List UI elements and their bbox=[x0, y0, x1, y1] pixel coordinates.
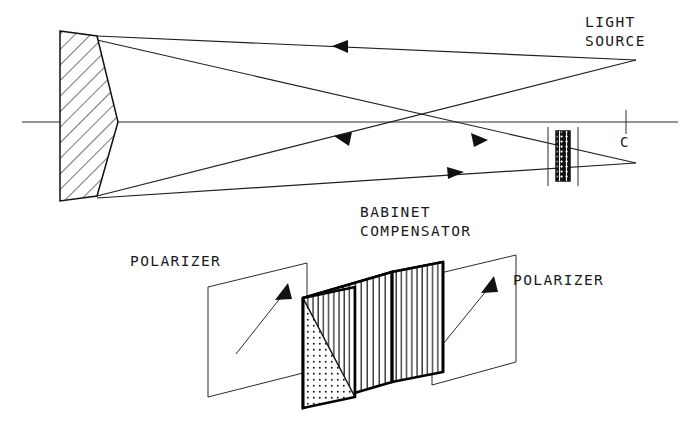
polarizer-left-arrow-shaft bbox=[236, 292, 285, 354]
ray-source-to-mirror-bottom bbox=[97, 60, 636, 196]
arrowhead-right bbox=[471, 133, 488, 147]
polarizer-right-arrowhead bbox=[481, 276, 498, 293]
arrowhead-left bbox=[334, 132, 352, 146]
polarizer-left-plane bbox=[208, 263, 307, 397]
babinet-label-line1: BABINET bbox=[360, 204, 431, 220]
polarizer-right-plane bbox=[432, 255, 516, 385]
upper-optical-diagram: LIGHT SOURCE C bbox=[22, 14, 678, 201]
figure-canvas: LIGHT SOURCE C bbox=[0, 0, 700, 436]
ray-source-to-mirror-top bbox=[97, 36, 636, 60]
light-source-label-line2: SOURCE bbox=[585, 33, 646, 49]
babinet-compensator-figure: LIGHT SOURCE C bbox=[0, 0, 700, 436]
mirror-hatch-fill bbox=[60, 31, 118, 201]
ray-mirror-bottom-to-focus bbox=[97, 163, 636, 198]
block-right-face bbox=[392, 262, 443, 382]
polarizer-left bbox=[208, 263, 307, 397]
polarizer-left-label: POLARIZER bbox=[130, 253, 221, 269]
polarizer-right bbox=[432, 255, 516, 385]
light-source-label-line1: LIGHT bbox=[585, 14, 636, 30]
lower-compensator-diagram: BABINET COMPENSATOR POLARIZER POLARIZER bbox=[130, 204, 604, 408]
babinet-label-line2: COMPENSATOR bbox=[360, 223, 471, 239]
polarizer-right-arrow-shaft bbox=[443, 285, 491, 344]
concave-mirror bbox=[60, 31, 118, 201]
arrowhead-left bbox=[332, 40, 348, 53]
compensator-body-fill bbox=[556, 131, 570, 181]
arrowhead-right bbox=[447, 167, 464, 179]
small-compensator bbox=[548, 127, 578, 186]
ray-mirror-top-to-focus bbox=[97, 40, 636, 163]
block-left-face bbox=[303, 287, 355, 408]
polarizer-left-arrowhead bbox=[275, 283, 292, 300]
axis-point-label: C bbox=[620, 134, 629, 150]
babinet-compensator-block bbox=[303, 262, 443, 408]
polarizer-right-label: POLARIZER bbox=[513, 272, 604, 288]
